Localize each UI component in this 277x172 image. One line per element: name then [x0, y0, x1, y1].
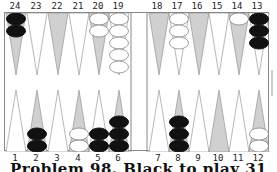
checkers-point-14[interactable] [230, 13, 249, 25]
point-1[interactable] [6, 90, 26, 152]
point-18[interactable] [149, 13, 169, 75]
checkers-point-17[interactable] [170, 13, 189, 49]
point-label: 14 [227, 1, 247, 11]
point-label: 13 [247, 1, 267, 11]
board-edge-marker [271, 70, 273, 96]
point-15[interactable] [209, 13, 229, 75]
point-label: 15 [207, 1, 227, 11]
point-label: 20 [88, 1, 108, 11]
point-9[interactable] [189, 90, 209, 152]
point-label: 21 [68, 1, 88, 11]
point-10[interactable] [209, 90, 229, 152]
point-16[interactable] [189, 13, 209, 75]
point-3[interactable] [48, 90, 68, 152]
point-label: 24 [5, 1, 25, 11]
point-11[interactable] [229, 90, 249, 152]
point-label: 22 [47, 1, 67, 11]
point-7[interactable] [149, 90, 169, 152]
checkers-point-6[interactable] [110, 116, 129, 152]
point-label: 23 [26, 1, 46, 11]
point-label: 16 [187, 1, 207, 11]
point-label: 19 [108, 1, 128, 11]
problem-caption: Problem 98. Black to play 31 [0, 160, 277, 172]
board-points [5, 13, 270, 152]
checkers-point-19[interactable] [110, 13, 129, 73]
point-21[interactable] [69, 13, 89, 75]
checkers-point-8[interactable] [170, 116, 189, 152]
point-label: 17 [167, 1, 187, 11]
point-22[interactable] [48, 13, 68, 75]
point-23[interactable] [27, 13, 47, 75]
point-label: 18 [147, 1, 167, 11]
checkers-point-13[interactable] [250, 13, 269, 49]
backgammon-board [4, 12, 269, 151]
